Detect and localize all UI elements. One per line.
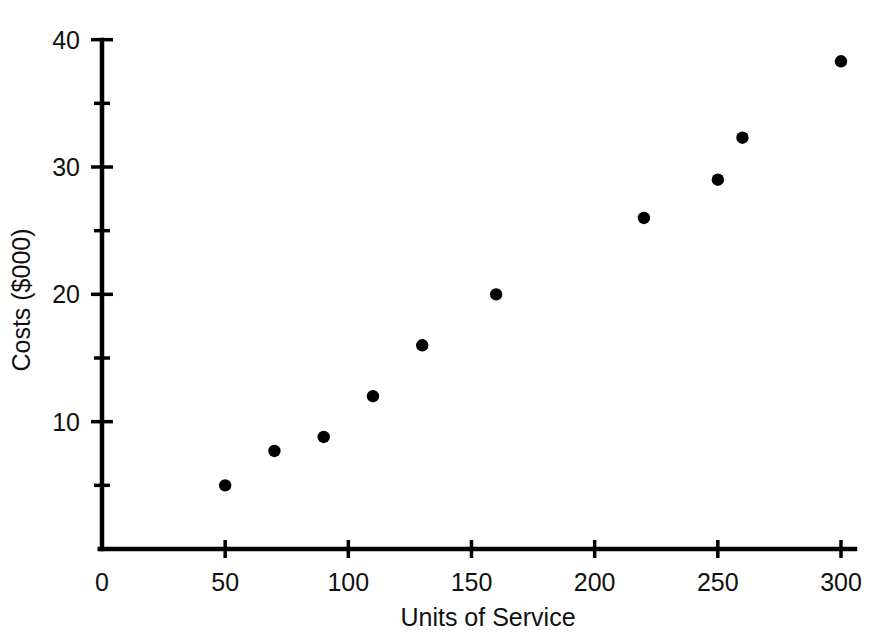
y-axis-tick-label: 20: [52, 280, 80, 308]
data-point: [712, 174, 724, 186]
data-point: [317, 431, 329, 443]
x-axis-tick-label: 250: [697, 568, 739, 596]
data-point: [416, 339, 428, 351]
data-point: [835, 55, 847, 67]
data-point: [219, 479, 231, 491]
y-axis-tick-label: 30: [52, 153, 80, 181]
y-axis-tick-label-group: 10203040: [52, 26, 80, 436]
data-point: [490, 288, 502, 300]
x-axis-tick-label: 150: [451, 568, 493, 596]
data-point-group: [219, 55, 847, 491]
y-axis-tick-label: 40: [52, 26, 80, 54]
x-axis-tick-label: 300: [820, 568, 862, 596]
x-axis-tick-label: 50: [211, 568, 239, 596]
data-point: [736, 132, 748, 144]
data-point: [367, 390, 379, 402]
data-point: [268, 445, 280, 457]
y-axis-tick-label: 10: [52, 408, 80, 436]
x-axis-tick-label: 200: [574, 568, 616, 596]
x-axis-tick-label: 0: [95, 568, 109, 596]
scatter-plot-figure: 050100150200250300 10203040 Units of Ser…: [0, 0, 876, 635]
x-axis-tick-label: 100: [327, 568, 369, 596]
x-axis-title: Units of Service: [400, 603, 575, 631]
axes-group: [100, 40, 855, 549]
data-point: [638, 212, 650, 224]
y-axis-title: Costs ($000): [7, 228, 35, 371]
x-axis-tick-label-group: 050100150200250300: [95, 568, 862, 596]
plot-canvas: 050100150200250300 10203040 Units of Ser…: [0, 0, 876, 635]
